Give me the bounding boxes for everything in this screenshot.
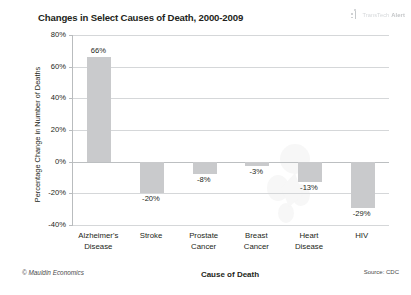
y-axis-tick-label: 20%	[20, 125, 66, 134]
bar[interactable]	[245, 162, 269, 167]
x-axis-tick-label-line: Breast	[230, 231, 283, 242]
bar[interactable]	[193, 162, 217, 175]
x-axis-tick-label-line: Alzheimer's	[72, 231, 125, 242]
y-axis-tick-label: 0%	[20, 157, 66, 166]
gridline	[73, 225, 389, 226]
gridline	[73, 35, 389, 36]
chart-title: Changes in Select Causes of Death, 2000-…	[38, 12, 243, 23]
y-axis-tick-label: 60%	[20, 62, 66, 71]
y-axis-tick-label: -40%	[20, 220, 66, 229]
source-note: Source: CDC	[364, 269, 399, 275]
copyright-note: © Mauldin Economics	[22, 269, 84, 276]
bar[interactable]	[298, 162, 322, 183]
x-axis-tick-label-line: Stroke	[125, 231, 178, 242]
bar-value-label: -13%	[283, 183, 336, 192]
bar-value-label: -29%	[335, 209, 388, 218]
gridline	[73, 98, 389, 99]
logo-mark-icon	[351, 9, 360, 20]
brand-logo: TransTech Alert	[351, 9, 405, 20]
x-axis-tick-label-line: Cancer	[177, 242, 230, 253]
bar[interactable]	[87, 57, 111, 162]
bar-value-label: -20%	[125, 194, 178, 203]
y-axis-tick-label: 40%	[20, 93, 66, 102]
x-axis-tick-label-line: Prostate	[177, 231, 230, 242]
bar-value-label: -8%	[177, 175, 230, 184]
x-axis-title: Cause of Death	[72, 270, 388, 279]
x-axis-tick-label-line: Heart	[283, 231, 336, 242]
y-axis-tick-label: -20%	[20, 188, 66, 197]
y-axis-tick-label: 80%	[20, 30, 66, 39]
x-axis-tick-label: BreastCancer	[230, 231, 283, 252]
y-axis-tick	[69, 193, 73, 194]
gridline	[73, 130, 389, 131]
x-axis-tick-label: HeartDisease	[283, 231, 336, 252]
x-axis-tick-label: ProstateCancer	[177, 231, 230, 252]
brand-name-bold: Alert	[391, 12, 405, 18]
x-axis-tick-label: Stroke	[125, 231, 178, 242]
y-axis-tick	[69, 35, 73, 36]
chart-figure: Changes in Select Causes of Death, 2000-…	[0, 0, 411, 295]
bar-value-label: -3%	[230, 167, 283, 176]
x-axis-tick-label-line: Disease	[283, 242, 336, 253]
plot-area	[72, 35, 388, 225]
x-axis-tick-label: Alzheimer'sDisease	[72, 231, 125, 252]
y-axis-tick	[69, 130, 73, 131]
gridline	[73, 193, 389, 194]
y-axis-tick	[69, 162, 73, 163]
gridline	[73, 67, 389, 68]
bar[interactable]	[351, 162, 375, 208]
bar[interactable]	[140, 162, 164, 194]
x-axis-tick-label: HIV	[335, 231, 388, 242]
y-axis-tick	[69, 225, 73, 226]
x-axis-tick-label-line: Disease	[72, 242, 125, 253]
x-axis-tick-label-line: Cancer	[230, 242, 283, 253]
y-axis-tick	[69, 98, 73, 99]
y-axis-tick	[69, 67, 73, 68]
brand-name-light: TransTech	[362, 12, 389, 18]
x-axis-tick-label-line: HIV	[335, 231, 388, 242]
gridline	[73, 162, 389, 163]
bar-value-label: 66%	[72, 46, 125, 55]
